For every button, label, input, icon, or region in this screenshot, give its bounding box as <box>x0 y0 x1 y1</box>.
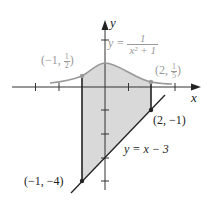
point-2-neg1-label: (2, −1) <box>153 113 186 128</box>
label-prefix: (2, <box>155 63 171 77</box>
label-suffix: ) <box>177 63 181 77</box>
line-x-minus-3-label: y = x − 3 <box>124 142 169 157</box>
x-axis-label: x <box>191 90 197 106</box>
label-prefix: (−1, <box>41 53 64 67</box>
point-neg1-neg4 <box>80 179 84 183</box>
shaded-region <box>82 63 151 181</box>
point-neg1-half-label: (−1, 12) <box>41 53 74 70</box>
point-neg1-neg4-label: (−1, −4) <box>24 174 64 189</box>
point-2-fifth-label: (2, 15) <box>155 63 181 80</box>
y-axis-label: y <box>110 15 116 31</box>
curve-reciprocal-lhs: y = <box>108 36 124 50</box>
point-2-neg1 <box>149 108 153 112</box>
y-axis-arrow-icon <box>102 20 109 30</box>
diagram-canvas <box>0 0 209 203</box>
point-neg1-half <box>80 74 84 78</box>
curve-reciprocal-label: y = 1 x² + 1 <box>108 33 158 56</box>
point-2-fifth <box>149 80 153 84</box>
label-suffix: ) <box>70 53 74 67</box>
fraction-denominator: x² + 1 <box>127 45 158 56</box>
curve-reciprocal-fraction: 1 x² + 1 <box>127 33 158 56</box>
